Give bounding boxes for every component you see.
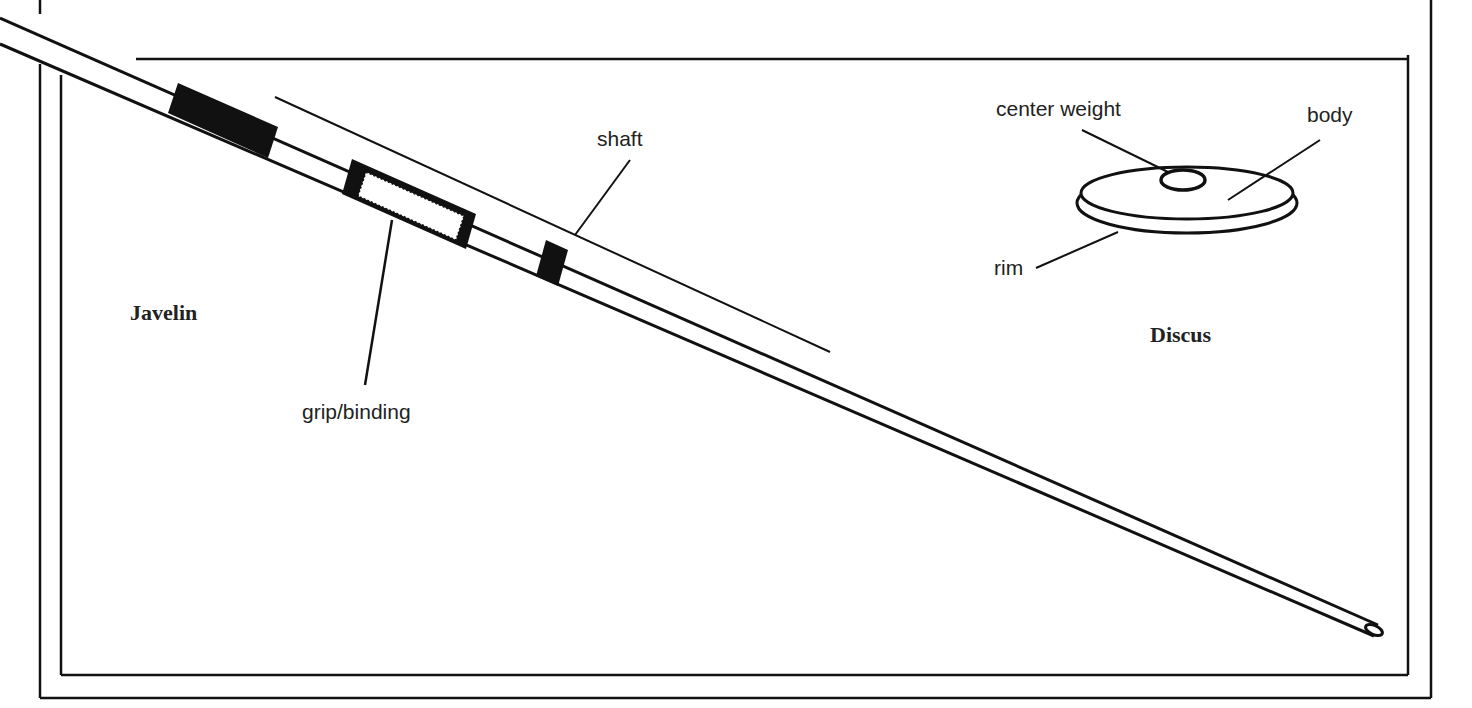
rim-label: rim: [994, 256, 1023, 280]
rim-leader-line: [1036, 232, 1118, 268]
javelin-title: Javelin: [130, 300, 197, 326]
discus-title: Discus: [1150, 322, 1211, 348]
grip-leader-line: [365, 220, 392, 385]
shaft-label: shaft: [597, 127, 643, 151]
center-weight-leader-line: [1082, 130, 1168, 172]
shaft-leader-line: [575, 160, 630, 235]
grip-binding-label: grip/binding: [302, 400, 411, 424]
center-weight-label: center weight: [996, 97, 1121, 121]
diagram-canvas: [0, 0, 1472, 708]
body-label: body: [1307, 103, 1353, 127]
shaft-indicator-line: [275, 97, 830, 352]
